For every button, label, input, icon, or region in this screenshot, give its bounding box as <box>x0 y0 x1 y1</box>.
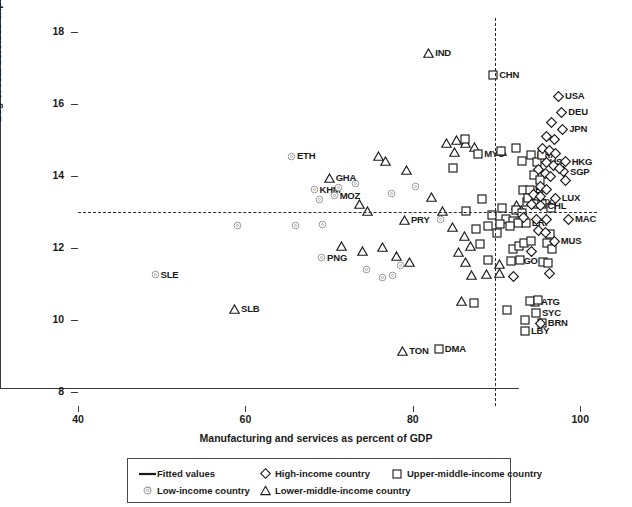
legend-label-upper-middle-income: Upper-middle-income country <box>407 468 542 479</box>
data-point-circle <box>233 221 242 230</box>
x-axis-title: Manufacturing and services as percent of… <box>0 432 632 444</box>
data-point-label: MAC <box>575 213 596 224</box>
data-point-triangle <box>397 346 408 356</box>
data-point-label: MUS <box>561 235 582 246</box>
data-point-label: GHA <box>336 172 357 183</box>
circle-icon <box>138 484 156 498</box>
data-point-triangle <box>466 270 477 280</box>
data-point-square <box>526 236 536 246</box>
data-point-circle <box>310 185 319 194</box>
triangle-icon <box>256 484 274 498</box>
data-point-label: SGP <box>570 166 589 177</box>
data-point-triangle <box>357 246 368 256</box>
data-point-triangle <box>324 173 335 183</box>
data-point-square <box>471 224 481 234</box>
data-point-diamond <box>560 175 571 186</box>
x-tick-mark <box>413 406 414 412</box>
data-point-square <box>543 258 553 268</box>
data-point-square <box>477 194 487 204</box>
data-point-square <box>473 149 483 159</box>
data-point-label: BRN <box>548 317 568 328</box>
data-point-square <box>531 308 541 318</box>
data-point-circle <box>317 253 326 262</box>
data-point-triangle <box>401 165 412 175</box>
y-tick-mark <box>71 176 78 177</box>
data-point-circle <box>378 273 387 282</box>
data-point-circle <box>318 220 327 229</box>
data-point-circle <box>388 271 397 280</box>
data-point-diamond <box>563 214 574 225</box>
data-point-square <box>448 163 458 173</box>
data-point-triangle <box>460 257 471 267</box>
data-point-label: DMA <box>445 343 466 354</box>
data-point-triangle <box>426 192 437 202</box>
data-point-triangle <box>380 156 391 166</box>
data-point-diamond <box>549 134 560 145</box>
data-point-triangle <box>449 147 460 157</box>
data-point-triangle <box>456 296 467 306</box>
data-point-label: ETH <box>297 150 315 161</box>
data-point-diamond <box>518 212 529 223</box>
line-icon <box>138 467 156 481</box>
x-axis-line <box>0 388 519 389</box>
data-point-label: JPN <box>569 123 587 134</box>
y-tick-label: 16 <box>24 97 64 109</box>
y-tick-label: 10 <box>24 313 64 325</box>
data-point-circle <box>151 270 160 279</box>
data-point-triangle <box>391 251 402 261</box>
vertical-reference-line <box>495 18 496 406</box>
data-point-label: ATG <box>541 296 560 307</box>
data-point-diamond <box>544 268 555 279</box>
y-tick-label: 12 <box>24 241 64 253</box>
data-point-circle <box>315 195 324 204</box>
chart-legend: Fitted values High-income country Upper-… <box>127 458 511 503</box>
data-point-square <box>515 255 525 265</box>
data-point-triangle <box>494 268 505 278</box>
y-tick-mark <box>71 248 78 249</box>
data-point-triangle <box>377 242 388 252</box>
y-tick-mark <box>71 104 78 105</box>
data-point-triangle <box>437 206 448 216</box>
data-point-diamond <box>546 117 557 128</box>
data-point-square <box>475 239 485 249</box>
legend-label-low-income: Low-income country <box>157 485 250 496</box>
data-point-circle <box>387 189 396 198</box>
data-point-triangle <box>453 247 464 257</box>
legend-item-fitted-values: Fitted values <box>138 467 256 481</box>
data-point-square <box>520 315 530 325</box>
data-point-square <box>505 221 515 231</box>
data-point-circle <box>411 182 420 191</box>
chart-root: 81012141618406080100 ETHKHMMOZSLEPNGINDG… <box>0 0 632 507</box>
legend-item-high-income: High-income country <box>256 467 388 481</box>
data-point-square <box>469 298 479 308</box>
data-point-square <box>483 255 493 265</box>
data-point-label: SLB <box>241 303 259 314</box>
y-tick-label: 18 <box>24 25 64 37</box>
data-point-circle <box>330 191 339 200</box>
data-point-triangle <box>423 48 434 58</box>
x-tick-label: 80 <box>393 413 433 425</box>
data-point-label: CHN <box>499 69 519 80</box>
data-point-square <box>520 326 530 336</box>
data-point-diamond <box>553 91 564 102</box>
data-point-square <box>517 156 527 166</box>
x-tick-label: 60 <box>225 413 265 425</box>
y-tick-mark <box>71 392 78 393</box>
y-tick-label: 14 <box>24 169 64 181</box>
data-point-triangle <box>229 304 240 314</box>
data-point-square <box>511 143 521 153</box>
data-point-circle <box>362 265 371 274</box>
data-point-diamond <box>526 199 537 210</box>
data-point-label: DEU <box>568 106 587 117</box>
diamond-icon <box>256 467 274 481</box>
x-tick-mark <box>78 406 79 412</box>
data-point-diamond <box>541 214 552 225</box>
horizontal-reference-line <box>78 212 597 213</box>
data-point-square <box>460 134 470 144</box>
data-point-label: CHL <box>547 200 566 211</box>
legend-item-lower-middle-income: Lower-middle-income country <box>256 484 411 498</box>
legend-item-upper-middle-income: Upper-middle-income country <box>388 467 542 481</box>
x-tick-mark <box>245 406 246 412</box>
y-tick-mark <box>71 32 78 33</box>
data-point-diamond <box>540 227 551 238</box>
